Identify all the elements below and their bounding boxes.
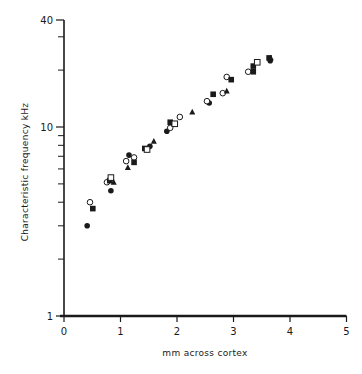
open-circle-marker [123, 158, 129, 164]
filled-circle-marker [108, 188, 114, 194]
filled-square-marker [90, 206, 96, 212]
data-points [84, 55, 273, 229]
filled-square-marker [210, 91, 216, 97]
x-tick-label: 3 [230, 326, 236, 337]
open-square-marker [254, 59, 260, 65]
open-circle-marker [177, 114, 183, 120]
x-tick-label: 4 [287, 326, 293, 337]
open-circle-marker [131, 155, 137, 161]
open-circle-marker [204, 98, 210, 104]
y-axis-title: Characteristic frequency kHz [20, 103, 30, 242]
filled-triangle-marker [189, 109, 195, 115]
open-square-marker [108, 175, 114, 181]
x-tick-label: 5 [343, 326, 349, 337]
filled-circle-marker [84, 223, 90, 229]
open-circle-marker [87, 199, 93, 205]
scatter-chart: 01234511040 mm across cortex Characteris… [0, 0, 362, 374]
filled-triangle-marker [125, 164, 131, 170]
filled-square-marker [250, 69, 256, 75]
axes: 01234511040 [40, 15, 349, 337]
filled-square-marker [228, 77, 234, 83]
y-tick-label: 1 [47, 311, 53, 322]
x-axis-title: mm across cortex [162, 348, 248, 358]
open-circle-marker [245, 69, 251, 75]
y-tick-label: 40 [40, 15, 53, 26]
open-square-marker [172, 121, 178, 127]
x-tick-label: 1 [117, 326, 123, 337]
x-tick-label: 2 [174, 326, 180, 337]
y-tick-label: 10 [40, 122, 53, 133]
filled-triangle-marker [151, 138, 157, 144]
open-square-marker [144, 147, 150, 153]
filled-square-marker [131, 160, 137, 166]
x-tick-label: 0 [61, 326, 67, 337]
